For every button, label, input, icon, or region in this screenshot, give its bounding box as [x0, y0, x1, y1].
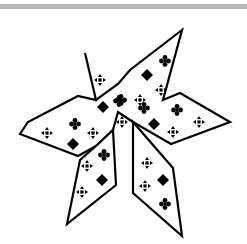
dotted-cross-icon	[94, 74, 106, 86]
upper-body-outline	[20, 30, 230, 156]
star-figure	[0, 0, 247, 244]
